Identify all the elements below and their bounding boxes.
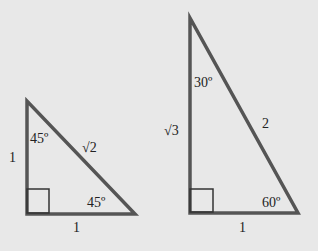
vertical-side-label: √3: [164, 124, 179, 138]
triangle-30-60-90: [190, 18, 298, 213]
bottom-angle-label: 60º: [262, 196, 280, 210]
bottom-angle-label: 45º: [87, 196, 105, 210]
bottom-side-label: 1: [239, 221, 246, 235]
right-angle-marker: [190, 189, 213, 212]
triangles-diagram: [0, 0, 318, 251]
bottom-side-label: 1: [73, 221, 80, 235]
hypotenuse-label: 2: [262, 117, 269, 131]
triangle-45-45-90: [27, 101, 135, 214]
vertical-side-label: 1: [9, 151, 16, 165]
right-angle-marker: [27, 189, 49, 213]
hypotenuse-label: √2: [82, 141, 97, 155]
top-angle-label: 45º: [30, 132, 48, 146]
top-angle-label: 30º: [194, 76, 212, 90]
